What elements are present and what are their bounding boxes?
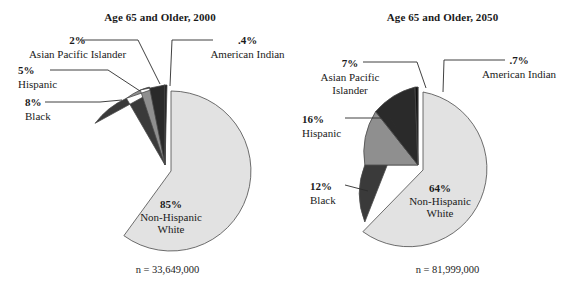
callout-2050-hispanic: 16% Hispanic — [302, 112, 372, 139]
callout-cat: American Indian — [482, 68, 556, 80]
callout-pct: .7% — [509, 54, 528, 66]
figure-two-pie-charts: Age 65 and Older, 2000 2% Asian Pacific … — [0, 0, 566, 297]
callout-pct: 16% — [302, 113, 324, 125]
callout-pct: 7% — [342, 57, 359, 69]
pie-svg-2050 — [0, 0, 566, 297]
callout-2050-american-indian: .7% American Indian — [472, 53, 566, 80]
inside-line1: Non-Hispanic — [385, 195, 495, 208]
callout-cat: Hispanic — [302, 127, 341, 139]
callout-2050-asian-pacific-islander: 7% Asian Pacific Islander — [300, 56, 400, 97]
inside-pct: 64% — [429, 182, 451, 194]
callout-cat: Black — [310, 194, 336, 206]
n-label-2050: n = 81,999,000 — [390, 264, 505, 275]
callout-2050-black: 12% Black — [310, 179, 380, 206]
callout-pct: 12% — [310, 180, 332, 192]
inside-label-2050: 64% Non-Hispanic White — [385, 182, 495, 220]
callout-cat: Asian Pacific — [321, 71, 380, 83]
inside-line2: White — [385, 207, 495, 220]
callout-cat-2: Islander — [332, 84, 367, 96]
